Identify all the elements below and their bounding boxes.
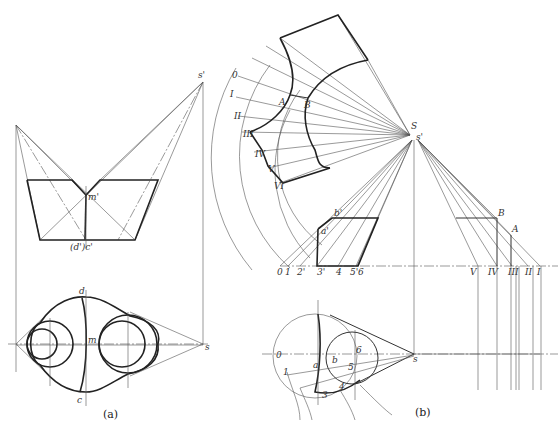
svg-text:II: II bbox=[524, 267, 533, 277]
svg-text:1: 1 bbox=[283, 367, 289, 377]
svg-text:4: 4 bbox=[335, 267, 342, 277]
svg-text:6: 6 bbox=[358, 267, 364, 277]
label-m: m bbox=[88, 335, 97, 345]
svg-text:s: s bbox=[413, 354, 418, 364]
svg-text:3: 3 bbox=[322, 390, 328, 400]
figure-b-development bbox=[211, 15, 410, 270]
technical-drawing: s' m' (d')c' d m c s (a) bbox=[0, 0, 558, 436]
label-roman-IV: IV bbox=[254, 149, 267, 159]
label-s: s bbox=[205, 342, 210, 352]
svg-text:IV: IV bbox=[487, 267, 500, 277]
label-B: B bbox=[303, 100, 311, 110]
svg-text:b: b bbox=[332, 355, 338, 365]
label-s-prime: s' bbox=[198, 70, 205, 80]
svg-text:V: V bbox=[470, 267, 478, 277]
figure-a-plan bbox=[8, 290, 208, 406]
label-c: c bbox=[77, 395, 82, 405]
svg-text:0: 0 bbox=[277, 267, 283, 277]
svg-text:5': 5' bbox=[350, 267, 358, 277]
svg-text:4: 4 bbox=[338, 382, 345, 392]
label-roman-0: 0 bbox=[232, 70, 238, 80]
label-S: S bbox=[411, 121, 417, 131]
svg-text:I: I bbox=[536, 267, 541, 277]
label-dc-prime: (d')c' bbox=[70, 242, 93, 252]
label-roman-VI: VI bbox=[274, 181, 284, 191]
svg-text:5: 5 bbox=[348, 362, 354, 372]
caption-a: (a) bbox=[103, 408, 118, 421]
label-roman-III: III bbox=[242, 129, 254, 139]
figure-b-labels-roman: 0 I II III IV V VI A B S s' bbox=[229, 70, 423, 191]
svg-text:2': 2' bbox=[296, 267, 305, 277]
label-m-prime: m' bbox=[88, 192, 99, 202]
label-a-prime: a' bbox=[321, 226, 329, 236]
caption-b: (b) bbox=[415, 406, 431, 419]
label-s-prime-b: s' bbox=[416, 132, 423, 142]
svg-text:a: a bbox=[313, 360, 318, 370]
label-A: A bbox=[278, 97, 286, 107]
svg-text:A: A bbox=[511, 224, 519, 234]
svg-text:0: 0 bbox=[276, 350, 282, 360]
svg-text:6: 6 bbox=[356, 345, 362, 355]
svg-text:III: III bbox=[507, 267, 519, 277]
ground-labels-left: 0 1 2' 3' 4 5' 6 bbox=[277, 267, 364, 277]
plan-labels-b: 0 1 a b 5 6 s 3 4 bbox=[276, 345, 418, 400]
label-d: d bbox=[79, 286, 85, 296]
svg-text:B: B bbox=[497, 208, 505, 218]
label-b-prime: b' bbox=[334, 208, 342, 218]
label-roman-II: II bbox=[233, 111, 242, 121]
label-roman-I: I bbox=[229, 89, 234, 99]
svg-text:1: 1 bbox=[285, 267, 291, 277]
svg-text:3': 3' bbox=[317, 267, 325, 277]
figure-b-plan bbox=[262, 266, 558, 420]
